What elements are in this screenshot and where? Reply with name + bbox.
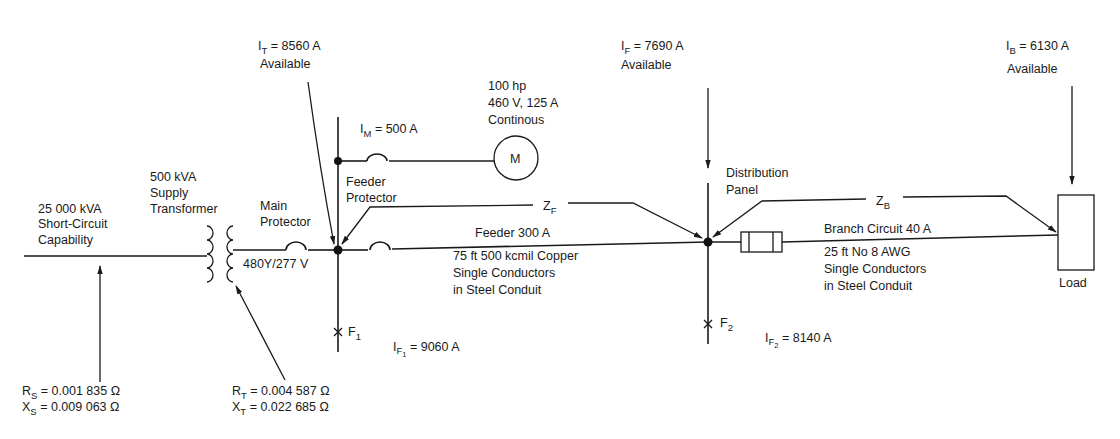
motor-symbol: M [510, 152, 520, 166]
xt-label: XT = 0.022 685 Ω [232, 400, 329, 417]
if-note: Available [621, 58, 672, 72]
supply-transformer: 500 kVA Supply Transformer 480Y/277 V RT… [150, 170, 330, 417]
transformer-available-current: IT = 8560 A Available [258, 39, 334, 244]
rt-label: RT = 0.004 587 Ω [232, 384, 330, 401]
transformer-label-3: Transformer [150, 202, 218, 216]
zf-right-leader [568, 203, 702, 238]
transformer-primary-coil-icon [207, 226, 213, 282]
transformer-voltage: 480Y/277 V [243, 257, 309, 271]
if-label: IF = 7690 A [621, 39, 684, 56]
source-label-3: Capability [38, 233, 94, 247]
transformer-label-2: Supply [150, 186, 189, 200]
load-box-icon [1058, 195, 1094, 270]
motor-breaker-icon [367, 154, 387, 161]
it-label: IT = 8560 A [258, 39, 321, 56]
it-arrow [308, 82, 334, 244]
ib-note: Available [1007, 62, 1058, 76]
fault-f1: F1 IF1 = 9060 A [334, 325, 460, 359]
rs-label: RS = 0.001 835 Ω [22, 384, 120, 401]
source-label-1: 25 000 kVA [38, 202, 102, 216]
im-label: IM = 500 A [360, 122, 418, 139]
if1-label: IF1 = 9060 A [393, 340, 460, 359]
motor-rating-2: 460 V, 125 A [488, 96, 559, 110]
feeder-line-b [392, 242, 708, 249]
main-breaker-icon [286, 242, 306, 250]
branch-circuit: ZB Branch Circuit 40 A 25 ft No 8 AWG Si… [708, 194, 1058, 293]
feeder-breaker-icon [370, 242, 390, 250]
branch-fuse-icon [741, 232, 782, 252]
it-note: Available [260, 57, 311, 71]
transformer-label-1: 500 kVA [150, 170, 197, 184]
branch-desc-2: Single Conductors [824, 262, 926, 276]
load: IB = 6130 A Available Load [1006, 39, 1094, 290]
panel-label-1: Distribution [726, 166, 789, 180]
zb-label: ZB [876, 194, 890, 211]
xs-label: XS = 0.009 063 Ω [22, 400, 119, 417]
motor-branch: IM = 500 A M 100 hp 460 V, 125 A Contino… [338, 79, 559, 180]
feeder-desc-3: in Steel Conduit [453, 283, 542, 297]
branch-line-b [782, 235, 1058, 242]
f2-label: F2 [720, 316, 733, 333]
source-label-2: Short-Circuit [38, 217, 108, 231]
utility-source: 25 000 kVA Short-Circuit Capability RS =… [22, 202, 207, 417]
if2-label: IF2 = 8140 A [765, 331, 832, 350]
f1-label: F1 [348, 325, 361, 342]
feeder-label: Feeder 300 A [475, 226, 551, 240]
transformer-secondary-coil-icon [227, 226, 233, 282]
branch-desc-3: in Steel Conduit [824, 279, 913, 293]
feeder-desc-1: 75 ft 500 kcmil Copper [453, 249, 578, 263]
main-protector-label-1: Main [260, 199, 287, 213]
branch-label: Branch Circuit 40 A [824, 222, 932, 236]
fault-f2: F2 IF2 = 8140 A [704, 316, 832, 350]
feeder-impedance: ZF Feeder 300 A 75 ft 500 kcmil Copper S… [342, 199, 702, 297]
load-label: Load [1059, 276, 1087, 290]
distribution-panel: IF = 7690 A Available Distribution Panel [621, 39, 789, 344]
feeder-protector-label-1: Feeder [346, 175, 386, 189]
feeder-protector-label-2: Protector [346, 191, 397, 205]
motor-rating-1: 100 hp [488, 79, 526, 93]
ib-label: IB = 6130 A [1006, 39, 1070, 56]
feeder-desc-2: Single Conductors [453, 266, 555, 280]
zf-label: ZF [543, 199, 557, 216]
one-line-diagram: 25 000 kVA Short-Circuit Capability RS =… [0, 0, 1120, 439]
transformer-impedance-arrow [236, 286, 285, 380]
panel-label-2: Panel [726, 183, 758, 197]
main-protector: Main Protector [233, 199, 338, 250]
branch-desc-1: 25 ft No 8 AWG [824, 245, 910, 259]
main-protector-label-2: Protector [260, 215, 311, 229]
motor-rating-3: Continous [488, 113, 544, 127]
